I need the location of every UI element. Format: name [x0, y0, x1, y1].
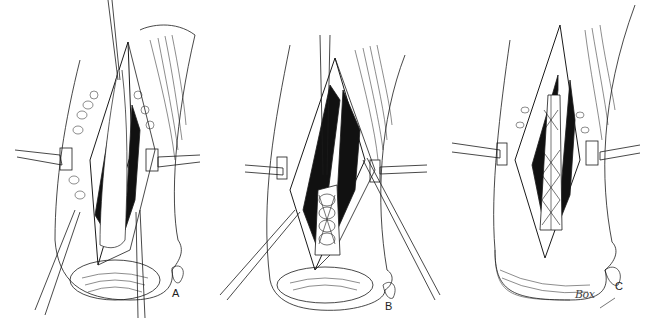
artist-signature: Box	[575, 288, 594, 301]
surgical-illustration: A	[0, 0, 650, 324]
panel-b: B	[215, 0, 440, 324]
panel-label-a: A	[172, 287, 179, 299]
panel-label-b: B	[385, 300, 392, 312]
panel-b-drawing	[215, 0, 440, 324]
panel-c: C Box	[440, 0, 650, 324]
panel-a: A	[0, 0, 215, 324]
panel-a-drawing	[0, 0, 215, 324]
panel-label-c: C	[615, 280, 623, 292]
panel-c-drawing	[440, 0, 650, 324]
